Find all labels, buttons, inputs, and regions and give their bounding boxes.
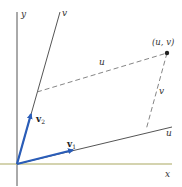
y-axis-label: y	[20, 9, 27, 19]
diagram-svg: y x v u (u, v) u v v2 v1	[0, 0, 182, 187]
u-axis-label: u	[166, 128, 172, 138]
point-uv	[165, 51, 169, 55]
x-axis-label: x	[165, 169, 170, 179]
dashed-u-label: u	[99, 57, 105, 67]
vector-v2	[17, 114, 31, 164]
vector-v2-label: v2	[35, 114, 45, 125]
dashed-v-label: v	[159, 86, 164, 96]
v-axis-label: v	[62, 8, 67, 18]
coordinate-diagram: y x v u (u, v) u v v2 v1	[0, 0, 182, 187]
vector-v1-label: v1	[66, 139, 76, 150]
point-label: (u, v)	[152, 37, 174, 47]
vector-v1	[17, 150, 73, 164]
